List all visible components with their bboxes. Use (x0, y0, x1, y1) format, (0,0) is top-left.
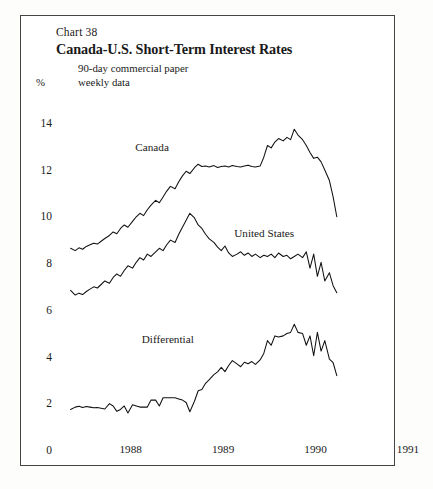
plot-lines (0, 0, 433, 489)
line-united-states (71, 213, 337, 295)
chart-figure: Chart 38 Canada-U.S. Short-Term Interest… (0, 0, 433, 489)
line-differential (71, 324, 337, 413)
line-canada (71, 129, 337, 250)
